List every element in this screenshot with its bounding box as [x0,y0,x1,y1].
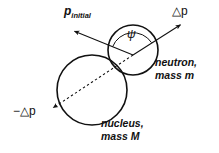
neutron-line-2: mass m [155,70,197,81]
label-delta-p: △p [172,5,188,18]
neutron-line-1: neutron, [155,56,197,68]
nucleus-line-1: nucleus, [101,117,144,129]
negative-delta-p-text: −△p [13,104,36,118]
delta-p-vector [133,25,181,55]
physics-diagram: pinitial △p −△p ψ neutron, mass m nucleu… [0,0,219,153]
p-initial-subscript: initial [71,11,91,20]
label-angle-psi: ψ [127,28,136,41]
label-negative-delta-p: −△p [13,105,36,118]
negative-delta-p-vector [53,55,133,108]
delta-p-text: △p [172,4,188,18]
label-p-initial: pinitial [64,5,91,18]
nucleus-line-2: mass M [101,131,144,142]
label-nucleus: nucleus, mass M [101,118,144,142]
label-neutron: neutron, mass m [155,57,197,81]
